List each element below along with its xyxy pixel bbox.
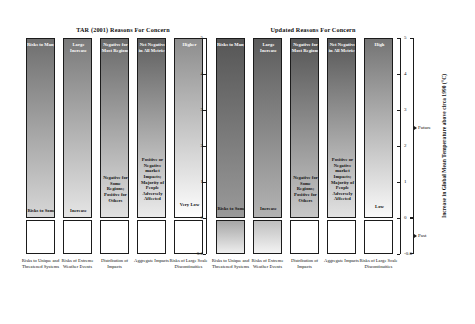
axis-tick	[203, 146, 206, 147]
ember-gradient-future	[175, 39, 202, 218]
ember-gradient-future	[64, 39, 91, 218]
ember-gradient-future	[254, 39, 281, 218]
ember-future-box: HigherVery Low	[174, 38, 203, 218]
ember-category-label: Distribution of Impacts	[284, 258, 325, 270]
axis-tick-label: 1	[404, 179, 407, 184]
panel-updated: Risks to ManyRisks to SomeRisks to Uniqu…	[216, 38, 392, 254]
ember-category-label: Distribution of Impacts	[94, 258, 135, 270]
ember-bottom-label: Very Low	[175, 202, 203, 208]
ember-past-box	[253, 220, 282, 254]
axis-tick-label: 3	[201, 107, 204, 112]
axis-tick-label: 0	[201, 215, 204, 220]
ember-past-box	[100, 220, 129, 254]
axis-tick-label: 0	[404, 215, 407, 220]
axis-tick	[203, 254, 206, 255]
ember-past-box	[364, 220, 393, 254]
ember-past-box	[137, 220, 166, 254]
ember-top-label: Large Increase	[254, 42, 282, 53]
ember-category-label: Aggregate Impacts	[321, 258, 362, 264]
bracket-label: Future	[418, 125, 431, 130]
ember-gradient-past	[217, 221, 244, 254]
axis-tick-label: 5	[404, 35, 407, 40]
ember-gradient-future	[365, 39, 392, 218]
ember-bottom-label: Low	[365, 204, 393, 210]
y-axis-right: 543210-0.6	[400, 38, 401, 254]
ember-past-box	[174, 220, 203, 254]
ember-category-label: Risks of Large Scale Discontinuities	[168, 258, 209, 270]
ember-bottom-label: Negative for Some Regions; Positive for …	[291, 175, 319, 203]
ember-category-label: Risks of Extreme Weather Events	[57, 258, 98, 270]
axis-tick	[397, 254, 400, 255]
ember-bottom-label: Positive or Negative market Impacts; Maj…	[328, 157, 356, 202]
bracket-arrow-icon	[414, 234, 417, 238]
ember-bottom-label: Risks to Some	[217, 206, 245, 212]
ember-column: Large IncreaseIncreaseRisks of Extreme W…	[253, 38, 282, 254]
ember-column: Negative for Most RegionsNegative for So…	[100, 38, 129, 254]
ember-bottom-label: Positive or Negative market Impacts; Maj…	[138, 157, 166, 202]
ember-past-box	[290, 220, 319, 254]
ember-category-label: Risks of Large Scale Discontinuities	[358, 258, 399, 270]
ember-past-box	[63, 220, 92, 254]
ember-column: Net Negative in All MetricsPositive or N…	[327, 38, 356, 254]
axis-tick-label: 4	[201, 71, 204, 76]
ember-column: Net Negative in All MetricsPositive or N…	[137, 38, 166, 254]
axis-tick	[397, 182, 400, 183]
ember-column: Negative for Most RegionsNegative for So…	[290, 38, 319, 254]
ember-top-label: Net Negative in All Metrics	[328, 42, 356, 53]
ember-column: Large IncreaseIncreaseRisks of Extreme W…	[63, 38, 92, 254]
axis-tick	[397, 110, 400, 111]
ember-top-label: Risks to Many	[27, 42, 55, 48]
y-axis-title: Increase in Global Mean Temperature abov…	[441, 38, 453, 254]
ember-past-box	[26, 220, 55, 254]
axis-tick-label: 2	[404, 143, 407, 148]
ember-top-label: Higher	[175, 42, 203, 48]
bracket-label: Past	[418, 233, 426, 238]
ember-bottom-label: Negative for Some Regions; Positive for …	[101, 175, 129, 203]
ember-bottom-label: Increase	[254, 206, 282, 212]
axis-line	[400, 38, 401, 254]
axis-tick	[397, 146, 400, 147]
ember-category-label: Aggregate Impacts	[131, 258, 172, 264]
ember-future-box: Risks to ManyRisks to Some	[26, 38, 55, 218]
ember-future-box: Negative for Most RegionsNegative for So…	[290, 38, 319, 218]
axis-tick-label: 4	[404, 71, 407, 76]
ember-gradient-future	[27, 39, 54, 218]
panel-tar: Risks to ManyRisks to SomeRisks to Uniqu…	[26, 38, 202, 254]
panel-title-tar: TAR (2001) Reasons For Concern	[38, 26, 208, 33]
axis-tick	[203, 38, 206, 39]
burning-embers-figure: TAR (2001) Reasons For Concern Updated R…	[0, 0, 475, 324]
axis-tick	[397, 74, 400, 75]
ember-column: HighLowRisks of Large Scale Discontinuit…	[364, 38, 393, 254]
ember-top-label: Risks to Many	[217, 42, 245, 48]
ember-top-label: Negative for Most Regions	[101, 42, 129, 53]
ember-future-box: Risks to ManyRisks to Some	[216, 38, 245, 218]
axis-tick	[203, 110, 206, 111]
axis-line	[206, 38, 207, 254]
ember-top-label: High	[365, 42, 393, 48]
ember-category-label: Risks of Extreme Weather Events	[247, 258, 288, 270]
axis-tick	[203, 182, 206, 183]
ember-category-label: Risks to Unique and Threatened Systems	[210, 258, 251, 270]
ember-future-box: Large IncreaseIncrease	[253, 38, 282, 218]
ember-bottom-label: Increase	[64, 208, 92, 214]
axis-tick-label: 3	[404, 107, 407, 112]
ember-gradient-future	[217, 39, 244, 218]
y-axis-middle: 543210-0.6	[206, 38, 207, 254]
ember-column: Risks to ManyRisks to SomeRisks to Uniqu…	[26, 38, 55, 254]
axis-tick	[397, 38, 400, 39]
axis-tick-label: 2	[201, 143, 204, 148]
ember-future-box: Net Negative in All MetricsPositive or N…	[327, 38, 356, 218]
axis-tick	[203, 218, 206, 219]
axis-tick-label: -0.6	[195, 251, 203, 256]
ember-future-box: Net Negative in All MetricsPositive or N…	[137, 38, 166, 218]
ember-gradient-past	[254, 221, 281, 254]
ember-past-box	[216, 220, 245, 254]
axis-tick	[397, 218, 400, 219]
ember-column: Risks to ManyRisks to SomeRisks to Uniqu…	[216, 38, 245, 254]
panel-title-updated: Updated Reasons For Concern	[228, 26, 398, 33]
axis-tick-label: 1	[201, 179, 204, 184]
ember-top-label: Negative for Most Regions	[291, 42, 319, 53]
ember-future-box: Negative for Most RegionsNegative for So…	[100, 38, 129, 218]
axis-tick-label: 5	[201, 35, 204, 40]
ember-future-box: HighLow	[364, 38, 393, 218]
